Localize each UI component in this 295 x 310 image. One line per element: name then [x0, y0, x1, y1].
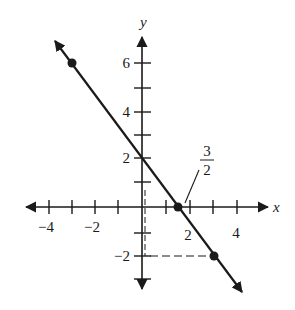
y-tick-label: 4 [123, 104, 131, 120]
x-tick-label: 4 [232, 225, 240, 241]
y-tick-label: 2 [123, 150, 131, 166]
y-tick-label: −2 [114, 248, 130, 264]
x-tick-label: 2 [184, 227, 192, 243]
point-neg3-6 [68, 59, 77, 68]
annotation-leader-line [185, 170, 199, 203]
x-tick-label: −2 [84, 219, 100, 235]
y-axis-label: y [138, 14, 147, 30]
coordinate-graph: 3 2 x y −4 −2 2 4 6 4 2 −2 [0, 0, 295, 310]
point-3-neg2 [210, 252, 219, 261]
point-x-intercept [174, 203, 183, 212]
x-axis-label: x [272, 199, 280, 215]
fraction-numerator: 3 [203, 143, 211, 159]
y-tick-label: 6 [123, 55, 131, 71]
x-tick-label: −4 [38, 219, 54, 235]
fraction-denominator: 2 [203, 162, 211, 178]
